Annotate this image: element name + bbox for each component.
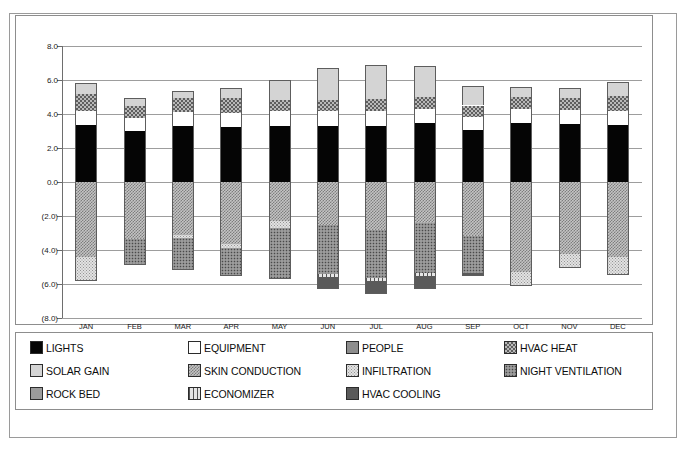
bar-segment[interactable] <box>414 66 436 97</box>
bar-segment[interactable] <box>172 126 194 182</box>
bar-segment[interactable] <box>414 182 436 223</box>
bar-segment[interactable] <box>365 65 387 99</box>
bar-segment[interactable] <box>559 267 581 268</box>
bar-segment[interactable] <box>269 100 291 112</box>
bar-segment[interactable] <box>220 88 242 98</box>
bar-column[interactable] <box>607 46 629 318</box>
bar-segment[interactable] <box>317 277 339 289</box>
bar-segment[interactable] <box>124 131 146 182</box>
bar-segment[interactable] <box>220 127 242 182</box>
bar-segment[interactable] <box>124 106 146 118</box>
bar-segment[interactable] <box>220 275 242 276</box>
bar-segment[interactable] <box>365 281 387 294</box>
bar-segment[interactable] <box>462 273 484 276</box>
legend-item[interactable]: INFILTRATION <box>346 364 431 377</box>
bar-segment[interactable] <box>365 182 387 230</box>
bar-segment[interactable] <box>510 272 532 286</box>
bar-segment[interactable] <box>124 182 146 239</box>
bar-segment[interactable] <box>75 125 97 182</box>
bar-column[interactable] <box>462 46 484 318</box>
bar-segment[interactable] <box>269 126 291 182</box>
bar-segment[interactable] <box>414 123 436 182</box>
bar-segment[interactable] <box>75 257 97 282</box>
bar-segment[interactable] <box>365 230 387 278</box>
legend-item[interactable]: HVAC HEAT <box>504 341 578 354</box>
legend-item[interactable]: NIGHT VENTILATION <box>504 364 622 377</box>
bar-column[interactable] <box>269 46 291 318</box>
bar-segment[interactable] <box>414 109 436 123</box>
bar-segment[interactable] <box>172 91 194 98</box>
bar-column[interactable] <box>317 46 339 318</box>
bar-segment[interactable] <box>75 182 97 257</box>
bar-segment[interactable] <box>510 123 532 182</box>
bar-segment[interactable] <box>269 80 291 100</box>
bar-segment[interactable] <box>510 182 532 272</box>
bar-segment[interactable] <box>317 126 339 182</box>
bar-segment[interactable] <box>172 238 194 269</box>
bar-segment[interactable] <box>317 100 339 112</box>
bar-column[interactable] <box>510 46 532 318</box>
bar-segment[interactable] <box>414 97 436 109</box>
bar-segment[interactable] <box>462 86 484 106</box>
bar-segment[interactable] <box>559 88 581 98</box>
bar-segment[interactable] <box>124 239 146 264</box>
bar-segment[interactable] <box>124 118 146 131</box>
bar-segment[interactable] <box>269 228 291 279</box>
legend-item[interactable]: LIGHTS <box>30 341 83 354</box>
bar-segment[interactable] <box>607 182 629 257</box>
bar-segment[interactable] <box>462 117 484 131</box>
bar-column[interactable] <box>365 46 387 318</box>
legend-item[interactable]: SKIN CONDUCTION <box>188 364 301 377</box>
legend-item[interactable]: SOLAR GAIN <box>30 364 109 377</box>
bar-column[interactable] <box>124 46 146 318</box>
bar-segment[interactable] <box>317 68 339 99</box>
bar-column[interactable] <box>559 46 581 318</box>
bar-segment[interactable] <box>462 236 484 273</box>
legend-item[interactable]: ECONOMIZER <box>188 387 274 400</box>
bar-segment[interactable] <box>365 99 387 112</box>
bar-segment[interactable] <box>559 182 581 254</box>
bar-segment[interactable] <box>510 109 532 123</box>
bar-segment[interactable] <box>317 182 339 225</box>
bar-segment[interactable] <box>462 130 484 182</box>
bar-segment[interactable] <box>607 82 629 96</box>
bar-segment[interactable] <box>510 87 532 97</box>
bar-segment[interactable] <box>559 124 581 182</box>
bar-segment[interactable] <box>220 248 242 274</box>
bar-segment[interactable] <box>172 269 194 270</box>
bar-segment[interactable] <box>559 254 581 267</box>
bar-segment[interactable] <box>172 112 194 126</box>
bar-segment[interactable] <box>269 111 291 125</box>
bar-segment[interactable] <box>607 257 629 276</box>
bar-segment[interactable] <box>172 182 194 235</box>
bar-segment[interactable] <box>365 126 387 182</box>
bar-segment[interactable] <box>75 111 97 125</box>
bar-segment[interactable] <box>607 111 629 125</box>
bar-column[interactable] <box>414 46 436 318</box>
bar-segment[interactable] <box>269 221 291 228</box>
bar-segment[interactable] <box>172 98 194 112</box>
bar-segment[interactable] <box>559 98 581 110</box>
bar-segment[interactable] <box>75 83 97 95</box>
legend-item[interactable]: HVAC COOLING <box>346 387 441 400</box>
bar-segment[interactable] <box>220 182 242 244</box>
bar-segment[interactable] <box>124 98 146 107</box>
bar-segment[interactable] <box>220 98 242 113</box>
legend-item[interactable]: PEOPLE <box>346 341 403 354</box>
bar-segment[interactable] <box>317 225 339 273</box>
bar-column[interactable] <box>172 46 194 318</box>
bar-segment[interactable] <box>559 110 581 124</box>
bar-segment[interactable] <box>269 182 291 221</box>
bar-segment[interactable] <box>75 94 97 110</box>
bar-column[interactable] <box>75 46 97 318</box>
bar-segment[interactable] <box>365 111 387 125</box>
bar-segment[interactable] <box>462 106 484 117</box>
bar-segment[interactable] <box>414 223 436 273</box>
bar-column[interactable] <box>220 46 242 318</box>
bar-segment[interactable] <box>607 96 629 110</box>
bar-segment[interactable] <box>607 125 629 182</box>
bar-segment[interactable] <box>317 111 339 125</box>
bar-segment[interactable] <box>414 276 436 289</box>
bar-segment[interactable] <box>462 182 484 236</box>
legend-item[interactable]: EQUIPMENT <box>188 341 266 354</box>
